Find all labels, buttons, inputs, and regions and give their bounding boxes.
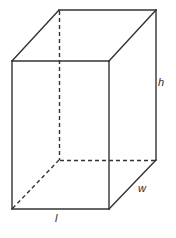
height-label: h xyxy=(158,77,164,88)
front-face-edges xyxy=(12,61,109,209)
depth-edge-top-right xyxy=(109,10,156,61)
width-label: w xyxy=(138,183,146,194)
hidden-edges xyxy=(12,11,156,209)
depth-edge-bottom-right xyxy=(109,160,156,209)
length-label: l xyxy=(55,213,57,224)
depth-edge-top-left xyxy=(12,10,59,61)
depth-edges xyxy=(12,10,156,209)
hidden-depth-edge-bottom-left xyxy=(12,160,59,209)
rectangular-prism-figure: h w l xyxy=(0,0,176,238)
prism-drawing xyxy=(0,0,176,238)
back-face-edges xyxy=(59,10,156,160)
